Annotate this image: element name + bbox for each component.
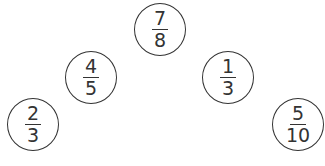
numerator: 5 xyxy=(290,104,306,125)
fraction: 7 8 xyxy=(152,9,168,50)
numerator: 1 xyxy=(220,57,236,78)
denominator: 3 xyxy=(222,78,234,98)
fraction-circle-two-thirds: 2 3 xyxy=(7,98,59,151)
fraction: 5 10 xyxy=(286,104,310,145)
fraction-circle-four-fifths: 4 5 xyxy=(65,51,117,104)
numerator: 2 xyxy=(25,104,41,125)
numerator: 4 xyxy=(83,57,99,78)
fraction: 1 3 xyxy=(220,57,236,98)
fraction-circle-one-third: 1 3 xyxy=(202,51,254,104)
denominator: 10 xyxy=(286,125,310,145)
fraction-circle-seven-eighths: 7 8 xyxy=(134,3,186,56)
fraction: 4 5 xyxy=(83,57,99,98)
denominator: 8 xyxy=(154,30,166,50)
fraction-circle-five-tenths: 5 10 xyxy=(272,98,324,151)
fraction: 2 3 xyxy=(25,104,41,145)
numerator: 7 xyxy=(152,9,168,30)
denominator: 5 xyxy=(85,78,97,98)
denominator: 3 xyxy=(27,125,39,145)
